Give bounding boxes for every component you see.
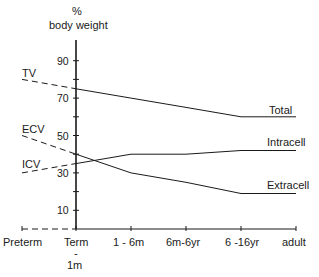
label-tv: TV [22,68,36,79]
x-tick-6m-6yr: 6m-6yr [166,237,200,248]
label-extracell: Extracell [267,180,309,191]
label-icv: ICV [22,159,40,170]
y-tick-70: 70 [57,93,69,104]
series-intracell-line [76,151,296,164]
label-ecv: ECV [22,124,45,135]
x-tick-6-16yr: 6 -16yr [225,237,259,248]
y-tick-30: 30 [57,168,69,179]
series-total-dashed [22,79,76,88]
label-total: Total [269,105,292,116]
y-axis-label-percent: % [72,6,82,17]
y-tick-10: 10 [57,205,69,216]
series-extracell-line [76,154,296,193]
x-tick-term-1m: 1m [67,260,82,271]
x-tick-preterm: Preterm [3,237,42,248]
series-total-line [76,89,296,117]
y-tick-50: 50 [57,131,69,142]
x-tick-1-6m: 1 - 6m [113,237,144,248]
y-axis-label-body-weight: body weight [49,20,108,31]
x-tick-adult: adult [282,237,306,248]
x-tick-term-dash: - [74,248,78,259]
label-intracell: Intracell [267,137,306,148]
y-tick-90: 90 [57,56,69,67]
